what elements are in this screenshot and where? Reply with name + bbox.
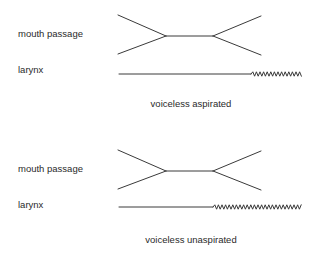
mouth-passage-trace — [118, 15, 261, 55]
mouth-passage-trace — [118, 150, 261, 190]
release-upper-arm — [213, 16, 261, 36]
larynx-trace — [119, 72, 301, 76]
release-lower-arm — [213, 171, 261, 190]
voicing-wave — [213, 205, 301, 209]
closing-lower-arm — [118, 171, 166, 189]
closing-lower-arm — [118, 36, 166, 54]
voicing-wave — [251, 72, 301, 76]
release-upper-arm — [213, 151, 261, 171]
diagram-voiceless-unaspirated: mouth passage larynx voiceless unaspirat… — [0, 135, 319, 254]
release-lower-arm — [213, 36, 261, 55]
larynx-trace — [119, 205, 301, 209]
closing-upper-arm — [118, 15, 166, 36]
caption: voiceless unaspirated — [0, 234, 319, 245]
closing-upper-arm — [118, 150, 166, 171]
caption: voiceless aspirated — [0, 98, 319, 109]
diagram-voiceless-aspirated: mouth passage larynx voiceless aspirated — [0, 0, 319, 127]
